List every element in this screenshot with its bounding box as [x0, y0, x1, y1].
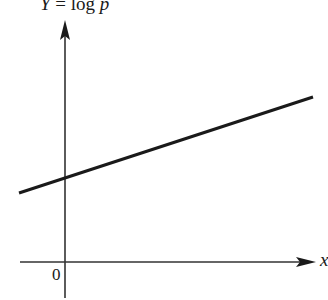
data-line — [19, 97, 313, 193]
x-axis-label: x — [320, 249, 328, 271]
y-axis-label-eq: = log — [51, 0, 100, 14]
y-axis-label-var: Y — [40, 0, 51, 14]
origin-label: 0 — [52, 265, 61, 285]
y-axis-label: Y = log p — [40, 0, 109, 15]
y-axis-label-p: p — [100, 0, 110, 14]
